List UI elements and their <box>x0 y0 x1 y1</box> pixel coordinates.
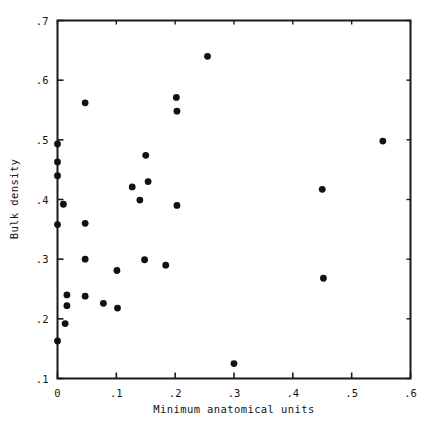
data-point <box>54 338 61 345</box>
x-tick-label-5: .5 <box>345 387 358 399</box>
data-point <box>54 221 61 228</box>
y-tick-label-5: .6 <box>36 74 49 86</box>
data-point <box>82 220 89 227</box>
data-point <box>60 201 67 208</box>
y-tick-labels: .1.2.3.4.5.6.7 <box>36 15 49 385</box>
y-axis-title: Bulk density <box>8 159 20 240</box>
data-point <box>114 267 121 274</box>
x-tick-label-4: .4 <box>287 387 300 399</box>
data-point <box>62 320 69 327</box>
x-tick-label-6: .6 <box>404 387 417 399</box>
data-point <box>82 256 89 263</box>
data-point <box>141 256 148 263</box>
data-point <box>320 275 327 282</box>
data-point <box>204 53 211 60</box>
axis-ticks <box>58 21 411 379</box>
data-point <box>174 108 181 115</box>
data-point <box>100 300 107 307</box>
data-point <box>114 305 121 312</box>
data-point <box>319 186 326 193</box>
y-tick-label-3: .4 <box>36 194 49 206</box>
data-point <box>145 178 152 185</box>
plot-frame <box>58 21 411 379</box>
data-point <box>129 184 136 191</box>
data-point <box>82 293 89 300</box>
y-tick-label-6: .7 <box>36 15 49 27</box>
data-point <box>54 172 61 179</box>
y-tick-label-1: .2 <box>36 313 49 325</box>
x-axis-title: Minimum anatomical units <box>153 403 314 415</box>
data-point <box>64 302 71 309</box>
x-tick-label-1: .1 <box>110 387 123 399</box>
y-tick-label-0: .1 <box>36 373 49 385</box>
x-tick-label-2: .2 <box>169 387 182 399</box>
data-point <box>64 292 71 299</box>
data-point <box>379 138 386 145</box>
data-point <box>231 360 238 367</box>
y-tick-label-4: .5 <box>36 134 49 146</box>
data-points <box>54 53 386 367</box>
x-tick-label-0: 0 <box>54 387 60 399</box>
plot-canvas: 0.1.2.3.4.5.6 .1.2.3.4.5.6.7 Minimum ana… <box>0 0 425 434</box>
x-tick-labels: 0.1.2.3.4.5.6 <box>54 387 416 399</box>
scatter-plot-figure: 0.1.2.3.4.5.6 .1.2.3.4.5.6.7 Minimum ana… <box>0 0 425 434</box>
plot-border <box>58 21 411 379</box>
x-tick-label-3: .3 <box>228 387 241 399</box>
data-point <box>173 94 180 101</box>
data-point <box>174 202 181 209</box>
data-point <box>142 152 149 159</box>
data-point <box>136 197 143 204</box>
data-point <box>54 141 61 148</box>
y-tick-label-2: .3 <box>36 253 49 265</box>
data-point <box>54 159 61 166</box>
data-point <box>162 262 169 269</box>
data-point <box>82 99 89 106</box>
